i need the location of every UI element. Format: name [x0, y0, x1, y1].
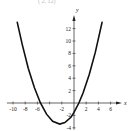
x-tick-label: -10: [9, 106, 17, 112]
y-axis-arrow: [72, 15, 75, 21]
x-tick-label: -8: [23, 106, 28, 112]
y-tick-label: 4: [68, 75, 71, 81]
y-axis-label: y: [75, 7, 79, 13]
x-tick-label: 2: [85, 106, 88, 112]
x-tick-label: 4: [97, 106, 100, 112]
y-tick-label: 2: [68, 88, 71, 94]
ticks: [13, 29, 111, 128]
x-axis-label: x: [123, 100, 127, 106]
y-tick-label: 12: [66, 26, 72, 32]
y-tick-label: 6: [68, 63, 71, 69]
x-tick-label: -2: [60, 106, 65, 112]
y-tick-label: 8: [68, 50, 71, 56]
caption-partial: ( 2, 12): [38, 0, 56, 5]
y-tick-label: -4: [66, 125, 71, 131]
x-tick-label: -6: [35, 106, 40, 112]
x-axis-arrow: [116, 101, 122, 104]
y-tick-label: 10: [66, 38, 72, 44]
x-tick-label: 6: [109, 106, 112, 112]
tick-labels: -10-8-6-224612108642-2-4: [9, 26, 112, 131]
chart: ( 2, 12) x y -10-8-6-224612108642-2-4: [0, 0, 134, 131]
